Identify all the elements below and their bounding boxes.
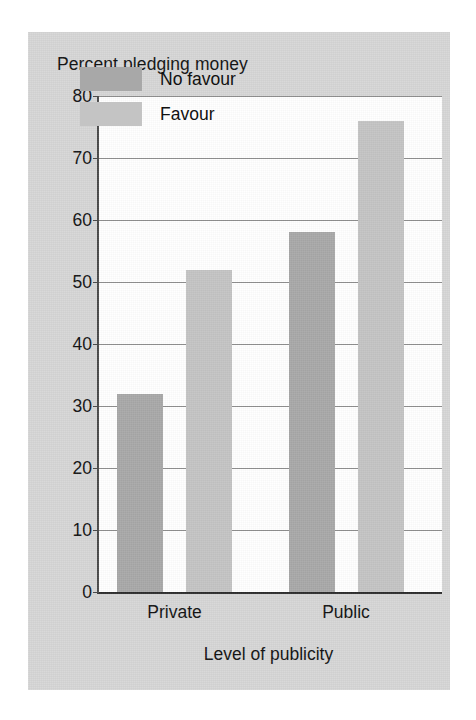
legend-item-no-favour: No favour [80, 66, 236, 92]
y-axis-tick-label: 40 [73, 334, 92, 355]
legend-swatch-favour [80, 102, 142, 126]
bar-private-favour [186, 270, 232, 592]
y-axis-tick-mark [93, 406, 99, 407]
y-axis-tick-mark [93, 592, 99, 593]
plot-area: 01020304050607080PrivatePublic [97, 96, 442, 594]
legend-swatch-no-favour [80, 67, 142, 91]
y-axis-tick-mark [93, 282, 99, 283]
y-axis-tick-mark [93, 344, 99, 345]
bar-public-no-favour [289, 232, 335, 592]
legend-label-favour: Favour [160, 104, 214, 125]
x-axis-tick-label: Public [322, 602, 370, 623]
y-axis-tick-label: 10 [73, 520, 92, 541]
legend-item-favour: Favour [80, 101, 236, 127]
figure-panel: Percent pledging money 01020304050607080… [28, 32, 450, 690]
y-axis-tick-mark [93, 220, 99, 221]
y-axis-tick-label: 20 [73, 458, 92, 479]
y-axis-tick-label: 30 [73, 396, 92, 417]
y-axis-tick-label: 50 [73, 272, 92, 293]
y-axis-tick-label: 60 [73, 210, 92, 231]
y-axis-tick-label: 70 [73, 148, 92, 169]
y-axis-tick-mark [93, 158, 99, 159]
legend-label-no-favour: No favour [160, 69, 236, 90]
bar-public-favour [358, 121, 404, 592]
x-axis-title: Level of publicity [97, 644, 440, 665]
y-axis-tick-mark [93, 468, 99, 469]
y-axis-tick-mark [93, 530, 99, 531]
bar-private-no-favour [117, 394, 163, 592]
chart-legend: No favour Favour [80, 66, 236, 136]
y-axis-tick-label: 0 [82, 582, 92, 603]
x-axis-tick-label: Private [147, 602, 201, 623]
